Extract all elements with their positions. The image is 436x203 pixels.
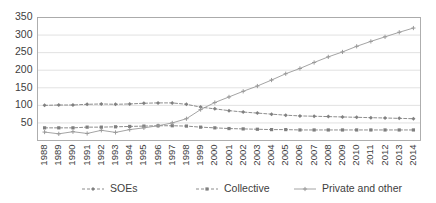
- data-point-marker: [43, 126, 46, 129]
- data-point-marker: [298, 114, 302, 118]
- y-axis-tick-labels: 50100150200250300350: [15, 10, 33, 127]
- data-point-marker: [86, 126, 89, 129]
- data-point-marker: [284, 72, 288, 76]
- data-point-marker: [241, 89, 245, 93]
- chart-legend: SOEsCollectivePrivate and other: [82, 182, 402, 194]
- x-axis-tick-label: 1993: [109, 145, 120, 166]
- data-point-marker: [85, 131, 89, 135]
- data-point-marker: [312, 60, 316, 64]
- data-point-marker: [57, 126, 60, 129]
- x-axis-tick-label: 2006: [293, 145, 304, 166]
- x-axis-tick-label: 2009: [336, 145, 347, 166]
- data-point-marker: [255, 111, 259, 115]
- y-axis-tick-label: 250: [15, 45, 33, 57]
- data-point-marker: [355, 44, 359, 48]
- data-point-marker: [71, 126, 74, 129]
- data-point-marker: [242, 127, 245, 130]
- x-axis-tick-label: 1988: [38, 145, 49, 166]
- data-point-marker: [205, 187, 208, 190]
- data-point-marker: [142, 101, 146, 105]
- y-axis-tick-label: 150: [15, 81, 33, 93]
- data-point-marker: [355, 115, 359, 119]
- x-axis-tick-label: 1994: [123, 145, 134, 166]
- data-point-marker: [284, 128, 287, 131]
- data-point-marker: [113, 130, 117, 134]
- data-point-marker: [383, 116, 387, 120]
- x-axis-tick-label: 2001: [223, 145, 234, 166]
- data-point-marker: [369, 128, 372, 131]
- x-axis-tick-label: 2014: [407, 145, 418, 166]
- data-point-marker: [213, 100, 217, 104]
- data-point-marker: [213, 107, 217, 111]
- data-point-marker: [43, 103, 47, 107]
- data-point-marker: [270, 128, 273, 131]
- data-point-marker: [185, 124, 188, 127]
- series-layer: [42, 26, 415, 136]
- data-point-marker: [369, 116, 373, 120]
- legend-item-collective[interactable]: Collective: [196, 182, 270, 194]
- data-point-marker: [383, 128, 386, 131]
- legend-label: Collective: [224, 182, 270, 194]
- data-point-marker: [114, 125, 117, 128]
- data-point-marker: [170, 101, 174, 105]
- x-axis-tick-label: 1997: [166, 145, 177, 166]
- data-point-marker: [411, 26, 415, 30]
- gridlines: [38, 18, 421, 123]
- x-axis-tick-label: 2003: [251, 145, 262, 166]
- data-point-marker: [303, 187, 307, 191]
- data-point-marker: [397, 30, 401, 34]
- y-axis-tick-label: 350: [15, 10, 33, 22]
- data-point-marker: [412, 128, 415, 131]
- data-point-marker: [199, 126, 202, 129]
- data-point-marker: [398, 128, 401, 131]
- plot-frame: [38, 18, 421, 141]
- legend-item-soes[interactable]: SOEs: [82, 182, 137, 194]
- data-point-marker: [42, 130, 46, 134]
- y-axis-tick-label: 50: [21, 116, 33, 128]
- x-axis-tick-label: 1996: [152, 145, 163, 166]
- data-point-marker: [411, 117, 415, 121]
- x-axis-tick-label: 2007: [308, 145, 319, 166]
- data-point-marker: [227, 109, 231, 113]
- data-point-marker: [128, 128, 132, 132]
- x-axis-tick-label: 1995: [137, 145, 148, 166]
- data-point-marker: [326, 115, 330, 119]
- data-point-marker: [355, 128, 358, 131]
- data-point-marker: [227, 127, 230, 130]
- series-soes: [43, 101, 416, 121]
- data-point-marker: [213, 126, 216, 129]
- data-point-marker: [71, 130, 75, 134]
- legend-item-private-and-other[interactable]: Private and other: [294, 182, 402, 194]
- data-point-marker: [397, 116, 401, 120]
- data-point-marker: [369, 39, 373, 43]
- data-point-marker: [256, 128, 259, 131]
- line-chart: 50100150200250300350 1988198919901991199…: [0, 0, 436, 203]
- data-point-marker: [327, 128, 330, 131]
- data-point-marker: [312, 114, 316, 118]
- y-axis-tick-label: 200: [15, 63, 33, 75]
- y-axis-tick-label: 300: [15, 28, 33, 40]
- data-point-marker: [57, 132, 61, 136]
- data-point-marker: [270, 112, 274, 116]
- series-line: [45, 28, 414, 134]
- x-axis-tick-label: 2002: [237, 145, 248, 166]
- x-axis-tick-label: 2011: [364, 145, 375, 165]
- data-point-marker: [341, 128, 344, 131]
- y-axis-tick-label: 100: [15, 98, 33, 110]
- data-point-marker: [57, 103, 61, 107]
- chart-container: 50100150200250300350 1988198919901991199…: [0, 0, 436, 203]
- data-point-marker: [340, 50, 344, 54]
- data-point-marker: [284, 113, 288, 117]
- x-axis-tick-label: 1998: [180, 145, 191, 166]
- x-axis-tick-label: 2004: [265, 145, 276, 166]
- x-axis-tick-label: 1999: [194, 145, 205, 166]
- legend-label: Private and other: [322, 182, 402, 194]
- x-axis-tick-label: 2008: [322, 145, 333, 166]
- data-point-marker: [71, 103, 75, 107]
- x-axis-tick-label: 2013: [393, 145, 404, 166]
- data-point-marker: [298, 128, 301, 131]
- data-point-marker: [313, 128, 316, 131]
- data-point-marker: [99, 128, 103, 132]
- data-point-marker: [340, 115, 344, 119]
- data-point-marker: [241, 110, 245, 114]
